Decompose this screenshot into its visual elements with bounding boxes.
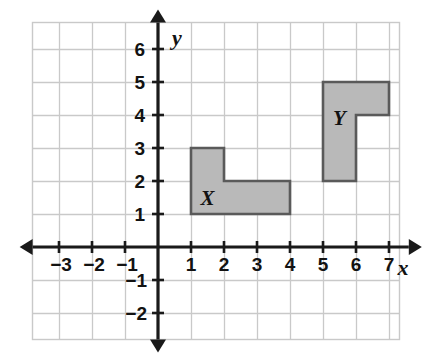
x-tick-label: −2: [83, 254, 105, 275]
shape-label-y: Y: [333, 106, 348, 130]
shape-label-x: X: [199, 186, 215, 210]
x-tick-label: 2: [219, 254, 230, 275]
y-tick-label: 2: [134, 171, 145, 192]
y-tick-label: 5: [134, 72, 145, 93]
coordinate-plane-figure: −3−2−11234567123456−1−2 x y XY: [0, 0, 426, 359]
y-tick-label: 4: [134, 105, 145, 126]
y-tick-label: −2: [125, 303, 147, 324]
y-tick-label: −1: [125, 270, 147, 291]
x-tick-label: 6: [351, 254, 362, 275]
x-tick-label: 5: [318, 254, 329, 275]
x-tick-label: 3: [252, 254, 263, 275]
x-tick-label: 7: [384, 254, 395, 275]
coordinate-plane-svg: −3−2−11234567123456−1−2 x y XY: [0, 0, 426, 359]
x-tick-label: 1: [186, 254, 197, 275]
x-tick-label: −3: [50, 254, 72, 275]
y-tick-label: 1: [134, 204, 145, 225]
y-tick-label: 3: [134, 138, 145, 159]
x-axis-label: x: [397, 255, 409, 280]
y-tick-label: 6: [134, 39, 145, 60]
x-tick-label: 4: [285, 254, 296, 275]
